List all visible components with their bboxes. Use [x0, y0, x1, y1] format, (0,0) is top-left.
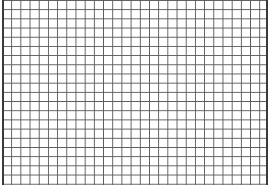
grid-right-border-rule [266, 0, 268, 185]
grid-surface [2, 0, 268, 185]
grid-left-border-rule [2, 0, 4, 185]
grid-canvas [0, 0, 275, 185]
